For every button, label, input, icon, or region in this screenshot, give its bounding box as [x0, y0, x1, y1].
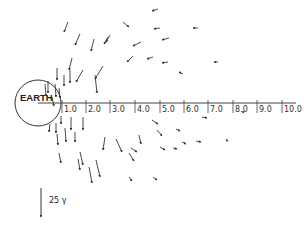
- field-vector-arrow: [76, 70, 83, 82]
- axis-ticks: 1.02.03.04.05.06.07.08.09.010.0: [62, 100, 302, 114]
- field-vector-arrow: [129, 177, 132, 181]
- field-vector-arrow: [89, 167, 92, 183]
- axis-tick-label: 1.0: [64, 105, 77, 114]
- axis-tick-label: 8.0: [235, 105, 248, 114]
- scale-label: 25 γ: [49, 196, 67, 205]
- field-vector-arrow: [69, 58, 72, 70]
- field-vectors: [45, 9, 244, 183]
- field-vector-arrow: [103, 137, 105, 150]
- earth-label: EARTH: [20, 92, 53, 103]
- field-vector-arrow: [162, 62, 168, 63]
- field-vector-arrow: [127, 56, 133, 62]
- field-vector-arrow: [123, 22, 129, 27]
- field-vector-arrow: [152, 120, 158, 124]
- field-vector-arrow: [147, 57, 153, 59]
- field-vector-arrow: [153, 177, 157, 180]
- axis-tick-label: 2.0: [88, 105, 101, 114]
- field-vector-arrow: [116, 139, 122, 152]
- field-vector-arrow: [64, 22, 68, 32]
- field-vector-arrow: [162, 38, 169, 40]
- field-vector-arrow: [59, 88, 60, 98]
- field-vector-arrow: [95, 66, 103, 79]
- field-vector-arrow: [176, 129, 180, 131]
- axis-tick-label: 10.0: [284, 105, 302, 114]
- field-vector-arrow: [173, 148, 177, 149]
- field-vector-arrow: [179, 72, 183, 74]
- field-vector-arrow: [96, 160, 100, 177]
- axis-tick-label: 4.0: [137, 105, 150, 114]
- magnetic-field-vector-diagram: EARTH 1.02.03.04.05.06.07.08.09.010.0 25…: [0, 0, 306, 229]
- field-vector-arrow: [55, 84, 56, 97]
- field-vector-arrow: [152, 9, 158, 11]
- field-vector-arrow: [226, 140, 228, 141]
- field-vector-arrow: [160, 147, 165, 150]
- field-vector-arrow: [157, 130, 162, 136]
- field-vector-arrow: [131, 148, 137, 152]
- axis-tick-label: 6.0: [186, 105, 199, 114]
- field-vector-arrow: [133, 42, 141, 46]
- axis-tick-label: 9.0: [259, 105, 272, 114]
- field-vector-arrow: [139, 135, 141, 144]
- field-vector-arrow: [75, 34, 80, 45]
- field-vector-arrow: [104, 37, 108, 44]
- field-vector-arrow: [80, 152, 83, 165]
- field-vector-arrow: [91, 39, 94, 51]
- axis-tick-label: 5.0: [162, 105, 175, 114]
- field-vector-arrow: [202, 117, 207, 118]
- field-vector-arrow: [78, 159, 80, 170]
- field-vector-arrow: [154, 28, 160, 29]
- field-vector-arrow: [106, 35, 110, 42]
- field-vector-arrow: [57, 134, 58, 145]
- field-vector-arrow: [196, 141, 201, 142]
- axis-tick-label: 3.0: [112, 105, 125, 114]
- field-vector-arrow: [65, 128, 66, 142]
- field-vector-arrow: [49, 124, 50, 132]
- field-vector-arrow: [182, 142, 186, 144]
- field-vector-arrow: [129, 153, 134, 161]
- field-vector-arrow: [59, 153, 61, 163]
- axis-tick-label: 7.0: [210, 105, 223, 114]
